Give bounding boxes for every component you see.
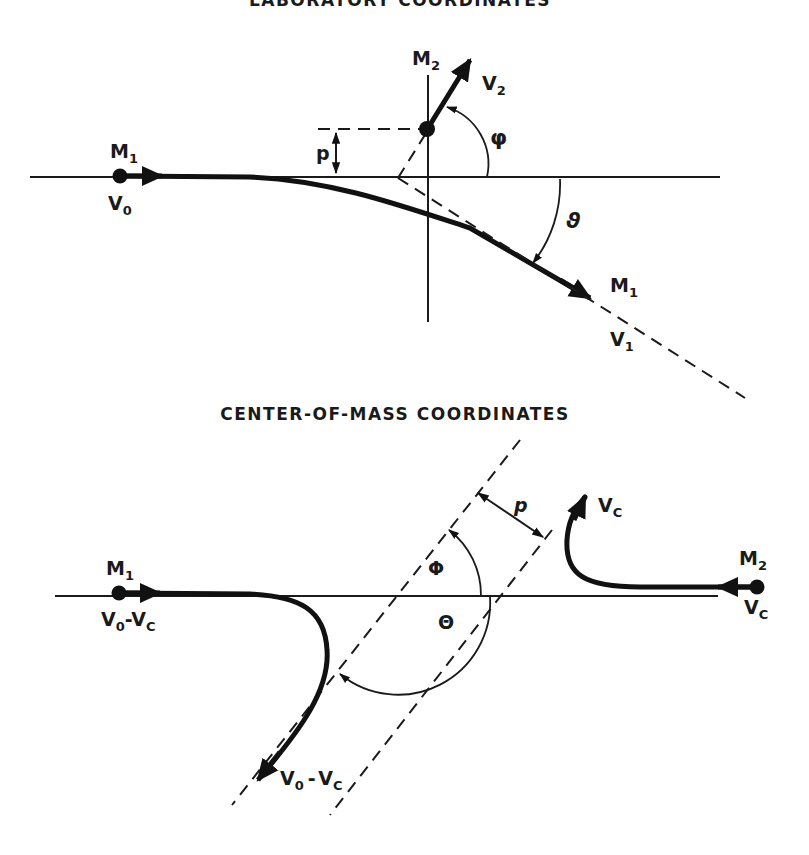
label-m1-outgoing: M1 xyxy=(610,274,638,300)
cm-label-vc-incoming: VC xyxy=(744,596,768,622)
label-v0: V0 xyxy=(108,192,132,218)
cm-label-impact-parameter: p xyxy=(513,494,528,516)
apex-to-m2-dashed xyxy=(398,130,428,178)
label-m1-incoming: M1 xyxy=(110,140,138,166)
center-of-mass-panel: CENTER-OF-MASS COORDINATES M1 V0-VC M2 V… xyxy=(55,404,768,815)
cm-label-m1: M1 xyxy=(106,557,134,583)
cm-label-vc-outgoing: VC xyxy=(598,494,622,520)
cm-label-v0-minus-vc-outgoing: V0-VC xyxy=(280,767,343,793)
cm-phi-angle-arc xyxy=(449,530,481,596)
label-m2: M2 xyxy=(412,47,440,73)
label-v2: V2 xyxy=(482,72,506,98)
label-phi: φ xyxy=(490,125,507,150)
scattering-diagram: LABORATORY COORDINATES M1 V0 M2 V2 p xyxy=(0,0,809,855)
panel-title-laboratory: LABORATORY COORDINATES xyxy=(249,0,551,10)
cm-asymptote-left xyxy=(232,440,520,805)
cm-impact-parameter-arrow xyxy=(478,493,543,537)
cm-m2-trajectory xyxy=(567,497,757,587)
theta-angle-arc xyxy=(533,179,560,263)
m1-outgoing-arrow xyxy=(560,280,590,298)
cm-label-theta: Θ xyxy=(438,611,454,633)
cm-m1-outgoing-arrow xyxy=(258,752,280,780)
label-impact-parameter: p xyxy=(316,142,330,164)
label-theta-lab: ϑ xyxy=(566,208,581,233)
m1-trajectory xyxy=(120,176,585,295)
label-v1: V1 xyxy=(610,328,634,354)
cm-label-v0-minus-vc-incoming: V0-VC xyxy=(101,608,156,634)
cm-theta-angle-arc xyxy=(340,597,490,695)
laboratory-panel: LABORATORY COORDINATES M1 V0 M2 V2 p xyxy=(30,0,745,398)
cm-label-phi: Φ xyxy=(428,557,444,579)
cm-label-m2: M2 xyxy=(739,547,767,573)
panel-title-center-of-mass: CENTER-OF-MASS COORDINATES xyxy=(220,404,569,424)
phi-angle-arc xyxy=(447,107,488,177)
